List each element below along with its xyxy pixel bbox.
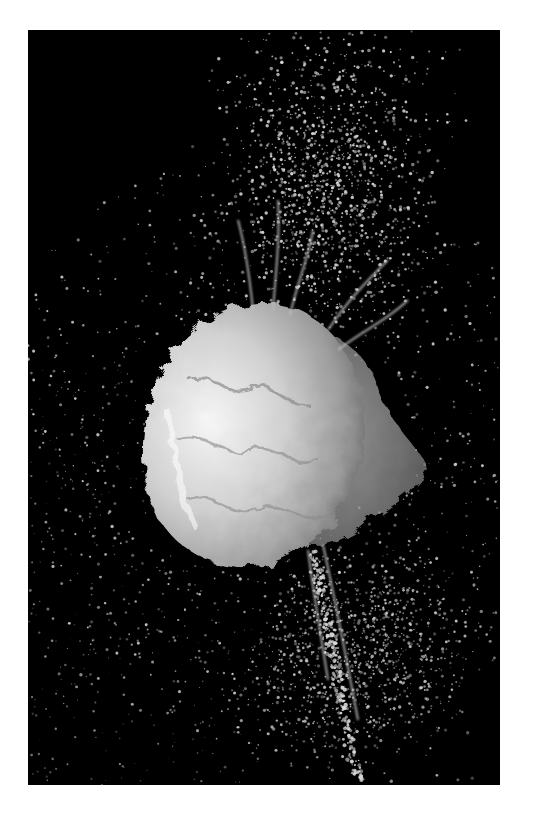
photo (28, 30, 500, 785)
splash-illustration (28, 30, 500, 785)
